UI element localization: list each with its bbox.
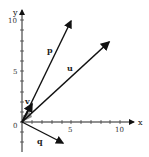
origin-label: 0	[13, 122, 17, 130]
vector-diagram: y x 0 5 10 5 10 p u v q	[0, 0, 149, 157]
x-tick-5: 5	[68, 126, 72, 134]
vector-v-label: v	[24, 96, 30, 106]
y-tick-5: 5	[13, 68, 17, 76]
x-axis-label: x	[138, 118, 143, 127]
vector-q-label: q	[37, 136, 43, 146]
vector-u-label: u	[67, 63, 73, 73]
vector-p	[22, 21, 71, 122]
y-tick-10: 10	[8, 17, 17, 25]
x-axis	[20, 120, 134, 124]
x-tick-10: 10	[115, 126, 124, 134]
vector-u	[22, 42, 109, 122]
y-axis	[20, 10, 24, 152]
y-axis-label: y	[12, 8, 18, 17]
vector-p-label: p	[47, 45, 53, 55]
